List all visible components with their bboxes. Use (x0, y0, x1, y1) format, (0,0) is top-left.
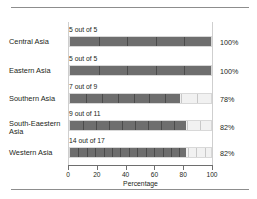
bar-segment-divider (135, 121, 136, 130)
chart-row: 9 out of 11 South-Eaestern Asia 82% (0, 110, 257, 136)
percent-label: 78% (220, 95, 254, 104)
bar-segment-divider (174, 121, 175, 130)
row-annotation: 5 out of 5 (69, 26, 97, 34)
bottom-divider-rule (11, 189, 249, 190)
bar-segment-divider (99, 66, 100, 75)
bar-segment-divider (181, 94, 182, 103)
category-label: Southern Asia (9, 95, 66, 103)
bar-fill (70, 66, 211, 75)
x-axis-tick (68, 166, 69, 170)
percent-label: 82% (220, 149, 254, 158)
bar-track[interactable] (69, 65, 212, 76)
chart-row: 5 out of 5 Central Asia 100% (0, 26, 257, 52)
bar-segment-divider (78, 148, 79, 157)
x-axis-title: Percentage (68, 180, 213, 187)
bar-segment-divider (148, 121, 149, 130)
bar-segment-divider (86, 94, 87, 103)
bar-segment-divider (154, 148, 155, 157)
bar-segment-divider (127, 37, 128, 46)
bar-segment-divider (129, 148, 130, 157)
chart-row: 14 out of 17 Western Asia 82% (0, 137, 257, 163)
row-annotation: 7 out of 9 (69, 83, 97, 91)
bar-segment-divider (95, 148, 96, 157)
bar-segment-divider (161, 121, 162, 130)
bar-segment-divider (99, 37, 100, 46)
bar-track[interactable] (69, 120, 212, 131)
bar-segment-divider (196, 148, 197, 157)
bar-segment-divider (197, 94, 198, 103)
bar-segment-divider (205, 148, 206, 157)
category-label: Eastern Asia (9, 67, 66, 75)
bar-segment-divider (112, 148, 113, 157)
bar-segment-divider (184, 66, 185, 75)
x-axis-tick-label: 60 (151, 171, 158, 178)
bar-segment-divider (200, 121, 201, 130)
bar-chart-figure: 5 out of 5 Central Asia 100% 5 out of 5 … (0, 0, 257, 199)
bar-segment-divider (96, 121, 97, 130)
bar-segment-divider (122, 121, 123, 130)
x-axis-tick-label: 100 (206, 171, 217, 178)
bar-segment-divider (83, 121, 84, 130)
bar-track[interactable] (69, 93, 212, 104)
percent-label: 82% (220, 123, 254, 132)
percent-label: 100% (220, 67, 254, 76)
bar-segment-divider (156, 37, 157, 46)
bar-segment-divider (165, 94, 166, 103)
bar-segment-divider (127, 66, 128, 75)
chart-row: 5 out of 5 Eastern Asia 100% (0, 55, 257, 81)
bar-segment-divider (146, 148, 147, 157)
category-label: Central Asia (9, 38, 66, 46)
bar-fill (70, 37, 211, 46)
x-axis-tick-label: 20 (93, 171, 100, 178)
bar-segment-divider (156, 66, 157, 75)
bar-segment-divider (120, 148, 121, 157)
bar-segment-divider (163, 148, 164, 157)
bar-segment-divider (134, 94, 135, 103)
x-axis-tick (183, 166, 184, 170)
x-axis-tick (126, 166, 127, 170)
x-axis-tick (154, 166, 155, 170)
row-annotation: 5 out of 5 (69, 55, 97, 63)
bar-segment-divider (118, 94, 119, 103)
x-axis-tick-label: 0 (66, 171, 70, 178)
x-axis (68, 165, 213, 170)
percent-label: 100% (220, 38, 254, 47)
bar-segment-divider (87, 148, 88, 157)
x-axis-tick (212, 166, 213, 170)
chart-row: 7 out of 9 Southern Asia 78% (0, 83, 257, 109)
top-divider-rule (11, 7, 249, 8)
bar-segment-divider (102, 94, 103, 103)
x-axis-tick-label: 80 (180, 171, 187, 178)
bar-segment-divider (137, 148, 138, 157)
x-axis-tick (97, 166, 98, 170)
row-annotation: 9 out of 11 (69, 110, 101, 118)
category-label: Western Asia (9, 149, 66, 157)
bar-segment-divider (109, 121, 110, 130)
row-annotation: 14 out of 17 (69, 137, 105, 145)
bar-segment-divider (184, 37, 185, 46)
x-axis-tick-label: 40 (122, 171, 129, 178)
bar-segment-divider (179, 148, 180, 157)
bar-track[interactable] (69, 36, 212, 47)
bar-segment-divider (104, 148, 105, 157)
bar-track[interactable] (69, 147, 212, 158)
bar-segment-divider (187, 121, 188, 130)
bar-segment-divider (188, 148, 189, 157)
bar-segment-divider (149, 94, 150, 103)
bar-segment-divider (171, 148, 172, 157)
category-label: South-Eaestern Asia (9, 120, 66, 137)
bar-fill (70, 121, 186, 130)
